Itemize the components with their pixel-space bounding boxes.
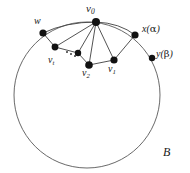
figure-canvas: v0 w x(α) y(β) vt v2 v1 B [0,0,190,173]
boundary-circle-B [14,22,160,168]
diagram-svg [0,0,190,173]
label-w: w [34,16,41,26]
node-v0 [92,18,100,26]
ellipsis-dot [66,51,68,53]
nodes-group [39,18,155,69]
label-v2-sub: 2 [86,72,89,79]
label-v1: v1 [108,64,116,76]
label-v0-sub: 0 [91,7,95,16]
label-region-B: B [163,146,170,158]
node-x-alpha [131,31,138,38]
label-vt-sub: t [52,59,54,66]
edge-v0-vt [55,22,96,47]
label-v0: v0 [86,3,95,16]
ellipsis-dot [70,53,72,55]
label-y-beta-close: ) [170,48,173,59]
label-x-alpha: x(α) [142,24,160,34]
label-x-alpha-close: ) [157,23,160,34]
edge-v1-xalpha [114,35,135,60]
label-vt: vt [48,55,54,67]
label-w-base: w [34,15,41,26]
ellipsis-dot [74,55,76,57]
label-v1-sub: 1 [112,68,115,75]
edge-v0-v1 [96,22,114,60]
node-y-beta [149,55,155,61]
label-y-beta: y(β) [156,49,173,59]
label-v2: v2 [82,68,90,80]
node-vt [52,44,59,51]
node-w [39,29,46,36]
label-x-alpha-greek: α [150,23,157,34]
node-vmid [75,50,81,56]
